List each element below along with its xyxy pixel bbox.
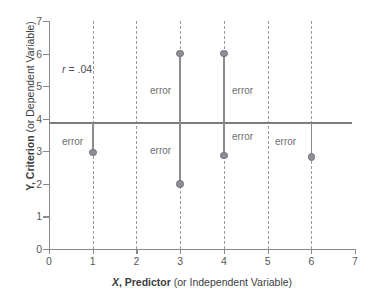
error-label: error bbox=[232, 131, 253, 142]
y-tick-6 bbox=[43, 54, 49, 55]
mean-regression-line bbox=[49, 122, 352, 124]
x-tick-1 bbox=[93, 249, 94, 254]
error-bar-x4-upper bbox=[223, 56, 225, 123]
data-point bbox=[220, 50, 228, 58]
error-label: error bbox=[150, 85, 171, 96]
y-axis-title-rest: (or Dependent Variable) bbox=[24, 21, 36, 135]
x-axis-title-rest: (or Independent Variable) bbox=[171, 276, 292, 288]
data-point bbox=[176, 180, 184, 188]
x-tick-0 bbox=[49, 249, 50, 254]
x-axis-title-symbol: X bbox=[112, 276, 119, 288]
y-axis-line bbox=[49, 21, 50, 250]
x-axis-title-bold: , Predictor bbox=[119, 276, 171, 288]
x-tick-label-7: 7 bbox=[343, 256, 367, 267]
x-axis-title: X, Predictor (or Independent Variable) bbox=[49, 276, 355, 288]
y-tick-label-0: 0 bbox=[8, 244, 42, 254]
error-bar-x3-upper bbox=[179, 56, 181, 123]
correlation-annotation: r = .04 bbox=[62, 63, 92, 75]
y-tick-1 bbox=[43, 216, 49, 217]
error-label: error bbox=[275, 136, 296, 147]
x-tick-label-4: 4 bbox=[212, 256, 236, 267]
x-tick-label-0: 0 bbox=[37, 256, 61, 267]
y-tick-5 bbox=[43, 86, 49, 87]
x-tick-label-2: 2 bbox=[124, 256, 148, 267]
x-tick-5 bbox=[268, 249, 269, 254]
y-tick-4 bbox=[43, 119, 49, 120]
chart-figure: 7 6 5 4 3 2 1 0 0 1 2 3 4 5 6 7 error er… bbox=[0, 0, 368, 300]
x-tick-2 bbox=[136, 249, 137, 254]
y-axis-title-bold: Y, Criterion bbox=[24, 135, 36, 190]
error-label: error bbox=[150, 145, 171, 156]
data-point bbox=[308, 153, 316, 161]
x-tick-7 bbox=[355, 249, 356, 254]
r-value: = .04 bbox=[66, 63, 93, 75]
y-tick-2 bbox=[43, 184, 49, 185]
error-label: error bbox=[62, 136, 83, 147]
x-tick-label-1: 1 bbox=[81, 256, 105, 267]
gridline-x-5 bbox=[268, 21, 269, 249]
x-axis-line bbox=[49, 249, 355, 250]
data-point bbox=[176, 50, 184, 58]
data-point bbox=[220, 152, 228, 160]
x-tick-6 bbox=[311, 249, 312, 254]
y-tick-7 bbox=[43, 21, 49, 22]
error-label: error bbox=[232, 85, 253, 96]
x-tick-label-3: 3 bbox=[168, 256, 192, 267]
error-bar-x4-lower bbox=[223, 123, 225, 156]
y-axis-title: Y, Criterion (or Dependent Variable) bbox=[24, 0, 36, 216]
x-tick-label-6: 6 bbox=[299, 256, 323, 267]
x-tick-3 bbox=[180, 249, 181, 254]
y-tick-3 bbox=[43, 151, 49, 152]
gridline-x-2 bbox=[136, 21, 137, 249]
error-bar-x3-lower bbox=[179, 123, 181, 185]
x-tick-4 bbox=[224, 249, 225, 254]
error-bar-x6 bbox=[311, 123, 313, 158]
data-point bbox=[89, 149, 97, 157]
x-tick-label-5: 5 bbox=[256, 256, 280, 267]
